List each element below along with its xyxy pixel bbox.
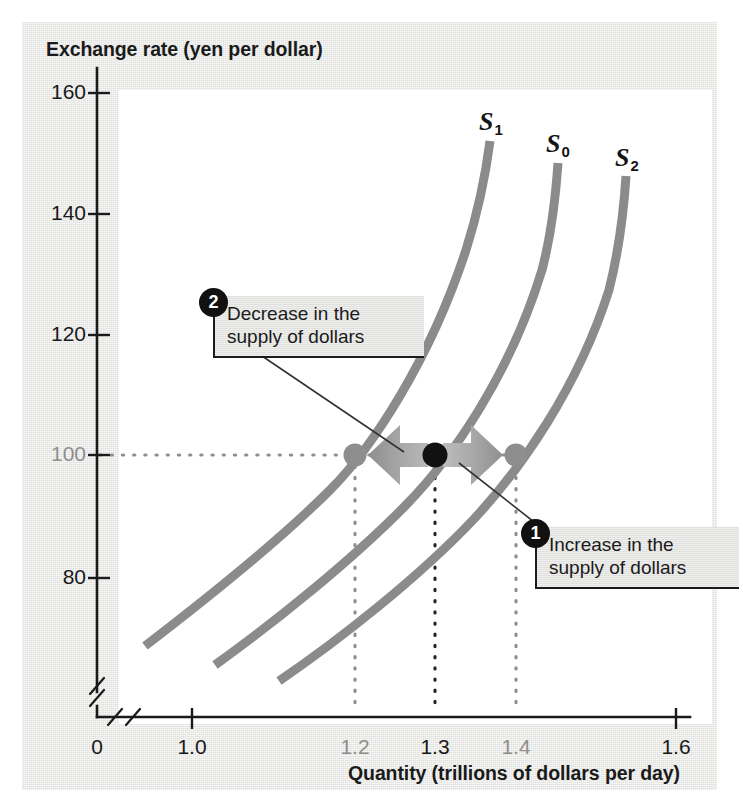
curve-label-s2: S2 — [615, 143, 638, 173]
y-tick-label-80: 80 — [28, 565, 86, 589]
callout-badge-1: 1 — [521, 519, 550, 548]
y-tick-label-140: 140 — [28, 201, 86, 225]
callout-decrease-line2: supply of dollars — [227, 325, 410, 348]
y-axis-ticks — [88, 93, 110, 578]
x-tick-label-1-2: 1.2 — [320, 735, 390, 759]
curve-label-s0-sub: 0 — [561, 143, 569, 160]
x-tick-label-1-4: 1.4 — [481, 735, 551, 759]
curve-label-s2-base: S — [615, 143, 629, 172]
callout-decrease-line1: Decrease in the — [227, 302, 410, 325]
callout-box-decrease: Decrease in the supply of dollars — [213, 296, 424, 358]
axes — [0, 0, 743, 807]
y-tick-label-100: 100 — [28, 442, 86, 466]
curve-label-s1-base: S — [479, 107, 493, 136]
curve-label-s1-sub: 1 — [494, 121, 502, 138]
curve-label-s0-base: S — [546, 129, 560, 158]
x-tick-label-1-6: 1.6 — [641, 735, 711, 759]
callout-increase-line1: Increase in the — [549, 533, 725, 556]
callout-badge-2: 2 — [199, 288, 228, 317]
x-tick-label-0: 0 — [62, 735, 132, 759]
y-tick-label-120: 120 — [28, 322, 86, 346]
x-axis-ticks — [192, 708, 676, 729]
y-tick-label-160: 160 — [28, 80, 86, 104]
callout-increase-line2: supply of dollars — [549, 556, 725, 579]
curve-label-s1: S1 — [479, 107, 502, 137]
x-tick-label-1-3: 1.3 — [400, 735, 470, 759]
callout-box-increase: Increase in the supply of dollars — [535, 527, 739, 589]
curve-label-s2-sub: 2 — [630, 157, 638, 174]
curve-label-s0: S0 — [546, 129, 569, 159]
x-tick-label-1-0: 1.0 — [157, 735, 227, 759]
